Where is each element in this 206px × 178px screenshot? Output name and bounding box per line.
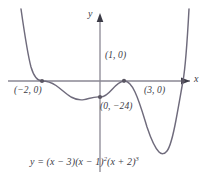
point-marker-1-0 [122,79,126,83]
point-marker-0-neg24 [98,95,102,99]
point-label-0-neg24: (0, −24) [100,101,133,111]
equation-factor-3-base: (x + 2) [107,156,136,167]
y-axis-label: y [88,8,92,19]
function-graph-figure: y x (−2, 0) (1, 0) (0, −24) (3, 0) y = (… [0,0,206,178]
x-axis-label: x [194,73,198,84]
y-axis-arrow-icon [97,13,104,22]
equation-caption: y = (x − 3)(x − 1)2(x + 2)3 [30,155,139,167]
point-marker-3-0 [181,79,185,83]
equation-factor-2-base: (x − 1) [75,156,104,167]
equation-lhs: y = [30,156,47,167]
point-marker-neg2-0 [40,79,44,83]
equation-factor-1: (x − 3) [47,156,76,167]
equation-factor-3-exponent: 3 [136,155,139,162]
point-label-1-0: (1, 0) [105,50,126,60]
point-label-neg2-0: (−2, 0) [14,85,42,95]
point-label-3-0: (3, 0) [144,85,165,95]
